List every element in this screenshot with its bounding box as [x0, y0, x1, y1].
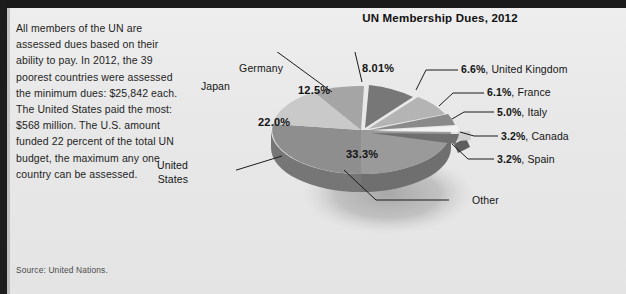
- slice-value-japan: 12.5%: [298, 84, 330, 96]
- callout-italy: 5.0%, Italy: [497, 106, 547, 118]
- callout-germany: Germany: [193, 62, 283, 74]
- callout-japan: Japan: [160, 80, 230, 92]
- top-rule: [0, 0, 626, 8]
- pie-chart: 8.01% 12.5% 22.0% 33.3%: [236, 52, 526, 242]
- pie-graphic: [236, 52, 526, 242]
- leader-france: [439, 93, 484, 106]
- slice-value-germany: 8.01%: [362, 62, 394, 74]
- callout-united-kingdom-country: United Kingdom: [491, 63, 567, 75]
- narrative-text: All members of the UN are assessed dues …: [16, 20, 188, 182]
- source-note: Source: United Nations.: [16, 265, 108, 275]
- callout-canada-pct: 3.2%: [501, 130, 525, 142]
- figure-panel: All members of the UN are assessed dues …: [0, 0, 626, 294]
- callout-spain: 3.2%, Spain: [497, 153, 555, 165]
- callout-united-kingdom: 6.6%, United Kingdom: [461, 63, 568, 75]
- leader-uk: [416, 70, 458, 90]
- callout-united-states: United States: [140, 159, 188, 186]
- slice-value-other: 33.3%: [346, 148, 378, 160]
- left-rule-soft: [7, 8, 10, 294]
- callout-italy-pct: 5.0%: [497, 106, 521, 118]
- callout-united-kingdom-pct: 6.6%: [461, 63, 485, 75]
- callout-canada: 3.2%, Canada: [501, 130, 569, 142]
- leader-italy: [452, 112, 494, 119]
- callout-france: 6.1%, France: [487, 86, 551, 98]
- callout-canada-country: Canada: [531, 130, 568, 142]
- callout-spain-country: Spain: [527, 153, 554, 165]
- callout-united-states-line1: United: [157, 159, 188, 171]
- left-rule: [0, 0, 7, 294]
- leader-germany: [276, 52, 362, 82]
- callout-italy-country: Italy: [527, 106, 547, 118]
- callout-france-country: France: [517, 86, 550, 98]
- chart-title: UN Membership Dues, 2012: [300, 12, 580, 24]
- callout-spain-pct: 3.2%: [497, 153, 521, 165]
- slice-value-united-states: 22.0%: [258, 116, 290, 128]
- callout-united-states-line2: States: [158, 173, 188, 185]
- callout-france-pct: 6.1%: [487, 86, 511, 98]
- callout-other: Other: [472, 194, 499, 206]
